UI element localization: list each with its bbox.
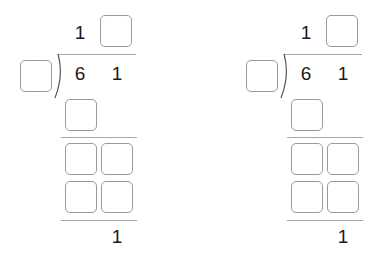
remainder-digit: 1 bbox=[336, 227, 350, 247]
dividend-digit-tens: 6 bbox=[73, 64, 87, 84]
division-bracket-icon bbox=[279, 53, 289, 99]
subtraction-line-2 bbox=[61, 220, 137, 221]
remainder-digit: 1 bbox=[110, 227, 124, 247]
dividend-digit-tens: 6 bbox=[299, 64, 313, 84]
vinculum-line bbox=[284, 54, 362, 55]
dividend-digit-ones: 1 bbox=[110, 64, 124, 84]
work-box-r2c2[interactable] bbox=[327, 181, 359, 213]
work-box-r1c2[interactable] bbox=[101, 143, 133, 175]
work-box-r1c1[interactable] bbox=[291, 143, 323, 175]
work-box-r2c1[interactable] bbox=[291, 181, 323, 213]
division-bracket-icon bbox=[53, 53, 63, 99]
divisor-blank-box[interactable] bbox=[246, 60, 278, 92]
quotient-blank-box[interactable] bbox=[326, 15, 358, 47]
quotient-blank-box[interactable] bbox=[100, 15, 132, 47]
subtraction-line-2 bbox=[287, 220, 363, 221]
subtraction-line-1 bbox=[287, 137, 363, 138]
work-box-r1c2[interactable] bbox=[327, 143, 359, 175]
long-division-puzzle-2: 1 6 1 1 bbox=[226, 0, 376, 254]
work-box-r2c1[interactable] bbox=[65, 181, 97, 213]
work-box-r2c2[interactable] bbox=[101, 181, 133, 213]
work-box-r1c1[interactable] bbox=[65, 143, 97, 175]
first-product-blank-box[interactable] bbox=[65, 99, 97, 131]
dividend-digit-ones: 1 bbox=[336, 64, 350, 84]
quotient-digit: 1 bbox=[299, 23, 313, 43]
long-division-puzzle-1: 1 6 1 1 bbox=[0, 0, 150, 254]
divisor-blank-box[interactable] bbox=[20, 60, 52, 92]
first-product-blank-box[interactable] bbox=[291, 99, 323, 131]
vinculum-line bbox=[58, 54, 136, 55]
quotient-digit: 1 bbox=[73, 23, 87, 43]
subtraction-line-1 bbox=[61, 137, 137, 138]
